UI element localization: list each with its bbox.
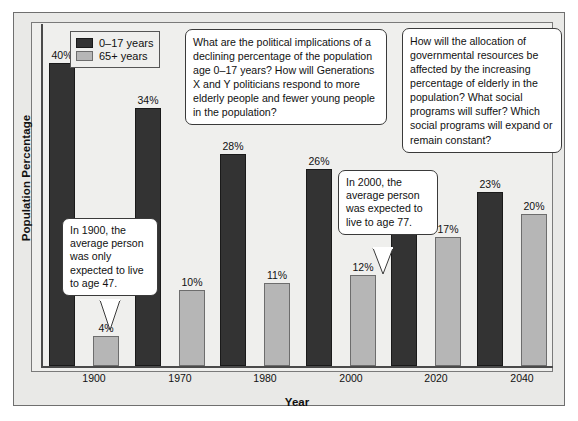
x-axis-title: Year	[41, 396, 553, 408]
bar-value-label-1980-old: 11%	[254, 269, 300, 281]
chart-legend: 0–17 years 65+ years	[70, 31, 160, 68]
callout-note-1900: In 1900, the average person was only exp…	[62, 218, 158, 296]
chart-page: Population Percentage Year 40%4%34%10%28…	[0, 0, 578, 421]
y-axis-title: Population Percentage	[20, 88, 32, 268]
legend-swatch-young-icon	[76, 38, 93, 48]
bar-1970-old	[179, 290, 205, 366]
y-axis-line	[41, 24, 43, 368]
bar-2020-old	[435, 237, 461, 366]
bar-value-label-2040-young: 23%	[467, 178, 513, 190]
x-tick-1900: 1900	[64, 372, 124, 384]
bar-2040-old	[521, 214, 547, 366]
bar-1900-old	[93, 336, 119, 366]
x-tick-2040: 2040	[492, 372, 552, 384]
callout-question-left: What are the political implications of a…	[185, 29, 387, 125]
x-axis-line	[41, 366, 553, 368]
callout-question-right: How will the allocation of governmental …	[402, 28, 562, 153]
bar-2000-young	[306, 169, 332, 366]
bar-value-label-2040-old: 20%	[511, 200, 557, 212]
bar-2000-old	[350, 275, 376, 366]
bar-1980-young	[220, 154, 246, 366]
callout-note-1900-tail-icon	[98, 300, 124, 332]
x-tick-1980: 1980	[235, 372, 295, 384]
callout-note-2000-tail-icon	[371, 248, 397, 276]
bar-value-label-1970-young: 34%	[125, 94, 171, 106]
legend-swatch-old-icon	[76, 51, 93, 61]
legend-item-old: 65+ years	[76, 50, 153, 62]
x-tick-2000: 2000	[321, 372, 381, 384]
legend-item-young: 0–17 years	[76, 37, 153, 49]
bar-1900-young	[49, 63, 75, 366]
callout-note-2000: In 2000, the average person was expected…	[338, 170, 438, 235]
bar-1980-old	[264, 283, 290, 366]
bar-value-label-2000-young: 26%	[296, 155, 342, 167]
bar-value-label-1980-young: 28%	[210, 140, 256, 152]
x-tick-2020: 2020	[406, 372, 466, 384]
legend-label-young: 0–17 years	[99, 37, 153, 49]
legend-label-old: 65+ years	[99, 50, 148, 62]
x-tick-1970: 1970	[150, 372, 210, 384]
bar-value-label-1970-old: 10%	[169, 276, 215, 288]
bar-2040-young	[477, 192, 503, 366]
